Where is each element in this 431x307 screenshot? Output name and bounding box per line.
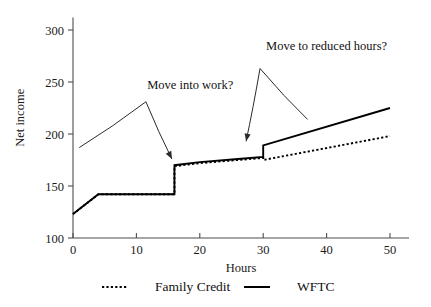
y-tick-label: 150 xyxy=(45,180,64,194)
legend-label-wftc: WFTC xyxy=(297,279,335,294)
y-tick-label: 200 xyxy=(45,128,64,142)
annotation-label-move-into-work: Move into work? xyxy=(147,78,234,92)
y-axis-title: Net income xyxy=(13,88,27,146)
legend-label-family-credit: Family Credit xyxy=(155,279,231,294)
net-income-hours-line-chart: 100150200250300 01020304050 Net income H… xyxy=(0,0,431,307)
x-axis-title: Hours xyxy=(226,261,257,275)
y-tick-label: 100 xyxy=(45,232,64,246)
y-tick-label: 300 xyxy=(45,24,64,38)
x-tick-label: 50 xyxy=(384,243,397,257)
annotation-label-move-to-reduced-hours: Move to reduced hours? xyxy=(266,39,388,53)
x-tick-label: 0 xyxy=(70,243,76,257)
x-tick-label: 10 xyxy=(130,243,143,257)
x-tick-label: 20 xyxy=(194,243,207,257)
x-tick-label: 30 xyxy=(257,243,270,257)
chart-container: 100150200250300 01020304050 Net income H… xyxy=(0,0,431,307)
x-tick-label: 40 xyxy=(320,243,333,257)
y-tick-label: 250 xyxy=(45,76,64,90)
